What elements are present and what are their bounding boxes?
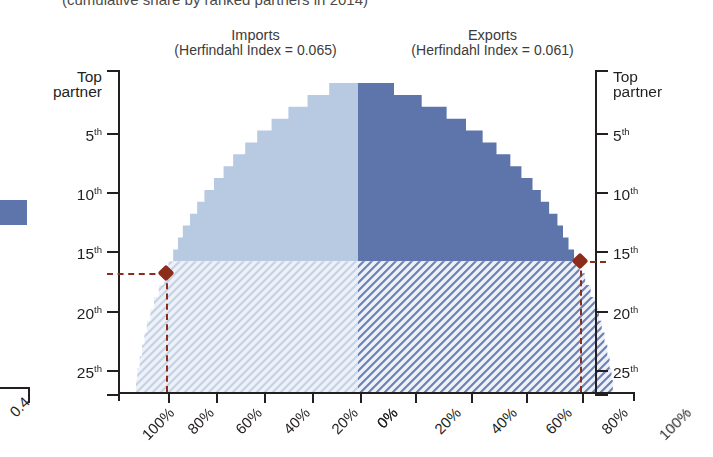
y-tick-right — [597, 251, 608, 253]
imports-title: Imports — [148, 28, 363, 43]
x-label-9: 60% — [542, 404, 575, 437]
y-tick-left — [107, 133, 118, 135]
x-label-0: 100% — [138, 404, 177, 443]
y-label-left-5: 5th — [85, 124, 102, 143]
y-tick-right — [597, 311, 608, 313]
exports-herfindahl: (Herfindahl Index = 0.061) — [385, 43, 600, 58]
x-label-1: 80% — [184, 404, 217, 437]
x-label-6: 0% — [373, 404, 400, 431]
chart-figure: (cumulative share by ranked partners in … — [0, 0, 713, 457]
imports-herfindahl: (Herfindahl Index = 0.065) — [148, 43, 363, 58]
exports-column-header: Exports (Herfindahl Index = 0.061) — [385, 28, 600, 58]
imports-area — [118, 83, 358, 392]
y-tick-left — [107, 192, 118, 194]
y-tick-left — [107, 311, 118, 313]
x-label-10: 80% — [597, 404, 630, 437]
legend-color-swatch — [0, 200, 27, 225]
x-label-2: 60% — [232, 404, 265, 437]
y-label-right-15: 15th — [613, 242, 638, 261]
y-label-left-15: 15th — [77, 242, 102, 261]
exports-step-area — [358, 83, 635, 392]
y-tick-right — [597, 133, 608, 135]
x-tick — [312, 394, 314, 403]
x-axis — [118, 392, 635, 401]
exports-title: Exports — [385, 28, 600, 43]
y-tick-right — [597, 370, 608, 372]
exports-area — [358, 83, 635, 392]
y-label-right-5: 5th — [613, 124, 630, 143]
imports-step-area — [118, 83, 358, 392]
annotation-vline — [580, 261, 582, 392]
y-tick-left — [107, 370, 118, 372]
y-label-right-1: Toppartner — [613, 69, 662, 99]
y-tick-right — [597, 192, 608, 194]
x-tick — [216, 394, 218, 403]
x-tick — [415, 394, 417, 403]
y-label-left-1: Toppartner — [53, 69, 102, 99]
x-tick — [526, 394, 528, 403]
imports-column-header: Imports (Herfindahl Index = 0.065) — [148, 28, 363, 58]
x-tick — [360, 394, 362, 403]
x-label-3: 40% — [280, 404, 313, 437]
annotation-vline — [166, 273, 168, 392]
y-label-left-10: 10th — [77, 183, 102, 202]
plot-area — [118, 83, 635, 392]
x-tick — [582, 394, 584, 403]
x-tick — [471, 394, 473, 403]
x-label-8: 40% — [487, 404, 520, 437]
y-label-left-25: 25th — [77, 361, 102, 380]
x-tick — [168, 394, 170, 403]
y-axis-left: Toppartner5th10th15th20th25th — [107, 70, 120, 396]
figure-subtitle-clipped: (cumulative share by ranked partners in … — [62, 0, 482, 9]
x-label-11: 100% — [655, 404, 694, 443]
y-axis-right: Toppartner5th10th15th20th25th — [595, 70, 608, 396]
x-label-4: 20% — [328, 404, 361, 437]
y-label-right-10: 10th — [613, 183, 638, 202]
y-label-right-20: 20th — [613, 302, 638, 321]
y-label-left-20: 20th — [77, 302, 102, 321]
x-tick — [264, 394, 266, 403]
x-label-7: 20% — [431, 404, 464, 437]
y-tick-left — [107, 251, 118, 253]
y-label-right-25: 25th — [613, 361, 638, 380]
